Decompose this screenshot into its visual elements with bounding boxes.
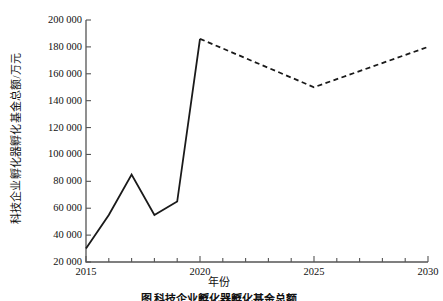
x-axis-title: 年份 bbox=[0, 276, 438, 288]
figure-caption: 图 科技企业孵化器孵化基金总额 bbox=[0, 293, 438, 301]
